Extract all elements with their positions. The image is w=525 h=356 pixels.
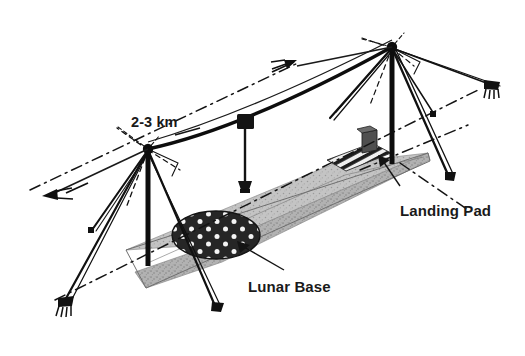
carriage-payload-base bbox=[240, 189, 250, 193]
landing-pad-block bbox=[362, 130, 377, 153]
guy-anchor-ground-lines bbox=[30, 62, 478, 300]
anchor-lower-right bbox=[445, 172, 456, 181]
left-guy-sw-inner bbox=[70, 152, 148, 303]
anchor-left-mid bbox=[88, 227, 94, 233]
leader-lunar-base bbox=[244, 247, 284, 270]
left-guy-w-inner bbox=[96, 153, 148, 231]
arrow-southwest bbox=[42, 183, 88, 200]
anchor-bottom-centre bbox=[211, 302, 224, 312]
right-guy-ne-thin bbox=[392, 48, 500, 86]
lunar-surface-strip bbox=[126, 153, 430, 288]
right-guyed-tower bbox=[387, 42, 397, 164]
left-guy-back-lower bbox=[126, 150, 148, 208]
main-span-cable-upper bbox=[148, 40, 392, 142]
carriage-payload bbox=[238, 181, 252, 190]
diagram-canvas: 2-3 km Landing Pad Lunar Base bbox=[0, 0, 525, 356]
carriage-body bbox=[237, 114, 254, 129]
main-span-cable-line bbox=[148, 47, 392, 149]
cable-carriage-trolley bbox=[237, 114, 254, 193]
label-span-distance: 2-3 km bbox=[131, 114, 178, 130]
label-landing-pad: Landing Pad bbox=[400, 202, 491, 219]
anchor-upper-right bbox=[484, 80, 500, 99]
right-guy-w2 bbox=[336, 48, 392, 112]
anchor-lower-left bbox=[56, 296, 74, 317]
label-lunar-base: Lunar Base bbox=[248, 278, 331, 295]
ground-line-long-diagonal bbox=[55, 90, 478, 300]
anchor-right-mid bbox=[430, 111, 436, 117]
lunar-cableway-diagram: 2-3 km Landing Pad Lunar Base bbox=[0, 0, 525, 356]
